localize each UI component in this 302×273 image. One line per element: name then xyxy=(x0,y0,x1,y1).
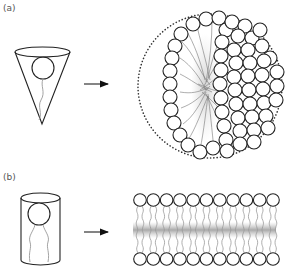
lipid-tail-icon xyxy=(29,225,35,262)
lipid-head-icon xyxy=(160,194,173,207)
lipid-head-icon xyxy=(174,253,187,266)
lipid-head-icon xyxy=(200,253,213,266)
lipid-head-icon xyxy=(32,57,54,79)
lipid-head-icon xyxy=(187,253,200,266)
lipid-head-icon xyxy=(240,194,253,207)
lipid-head-icon xyxy=(253,194,266,207)
lipid-head-icon xyxy=(214,194,227,207)
lipid-head-icon xyxy=(147,194,160,207)
lipid-head-icon xyxy=(174,194,187,207)
lipid-head-icon xyxy=(227,194,240,207)
lipid-head-icon xyxy=(253,253,266,266)
lipid-head-icon xyxy=(214,253,227,266)
lipid-head-icon xyxy=(227,253,240,266)
lipid-head-icon xyxy=(160,253,173,266)
lipid-head-icon xyxy=(267,253,280,266)
lipid-head-icon xyxy=(134,194,147,207)
cylinder-lipid-shape xyxy=(21,193,60,265)
cone-lipid-shape xyxy=(15,47,70,124)
lipid-head-icon xyxy=(28,203,50,225)
lipid-bilayer xyxy=(133,194,279,266)
lipid-head-icon xyxy=(240,253,253,266)
lipid-packing-diagram xyxy=(0,0,302,273)
lipid-head-icon xyxy=(187,194,200,207)
lipid-head-icon xyxy=(267,194,280,207)
lipid-tail-icon xyxy=(43,225,49,262)
micelle-heads xyxy=(163,11,284,159)
lipid-head-icon xyxy=(147,253,160,266)
lipid-head-icon xyxy=(134,253,147,266)
lipid-head-icon xyxy=(200,194,213,207)
lipid-tail-icon xyxy=(39,79,43,120)
micelle-cross-section xyxy=(138,11,284,159)
